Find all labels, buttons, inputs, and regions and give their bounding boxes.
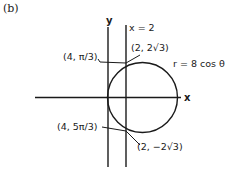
upper-cartesian-leader xyxy=(126,55,140,63)
curve-label: r = 8 cos θ xyxy=(173,58,225,69)
lower-polar-point-label: (4, 5π/3) xyxy=(57,121,98,132)
upper-polar-leader xyxy=(98,59,126,63)
panel-label: (b) xyxy=(3,2,19,15)
lower-cartesian-point-label: (2, −2√3) xyxy=(137,141,183,152)
polar-diagram: (b) x y x = 2 r = 8 cos θ (4, π/3) (2, 2… xyxy=(0,0,228,184)
upper-cartesian-point-label: (2, 2√3) xyxy=(131,42,169,53)
lower-polar-leader xyxy=(102,127,126,131)
vertical-line-label: x = 2 xyxy=(129,22,155,33)
x-axis-label: x xyxy=(184,92,191,103)
upper-polar-point-label: (4, π/3) xyxy=(63,51,97,62)
y-axis-label: y xyxy=(106,15,113,26)
